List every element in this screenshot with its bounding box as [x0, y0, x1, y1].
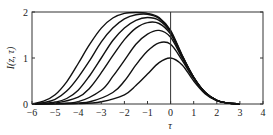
y-tick-label: 1: [23, 53, 28, 64]
x-tick-label: −4: [73, 107, 84, 118]
x-tick-label: −3: [96, 107, 107, 118]
x-tick-label: 4: [261, 107, 266, 118]
x-tick-label: −5: [50, 107, 61, 118]
series-curve-3: [32, 30, 240, 104]
x-tick-label: −1: [142, 107, 153, 118]
curves-group: [32, 13, 240, 105]
y-axis-ticks: 012: [23, 7, 263, 110]
x-axis-label: τ: [168, 120, 172, 131]
x-tick-label: 3: [237, 107, 242, 118]
y-axis-label: I(z, τ): [5, 46, 17, 70]
x-tick-label: 2: [214, 107, 219, 118]
series-curve-7: [32, 13, 240, 105]
y-tick-label: 0: [23, 99, 28, 110]
pulse-intensity-chart: −6−5−4−3−2−101234 012 τ I(z, τ): [0, 0, 273, 135]
x-tick-label: −6: [27, 107, 38, 118]
series-curve-4: [32, 22, 240, 104]
x-tick-label: 1: [191, 107, 196, 118]
x-tick-label: −2: [119, 107, 130, 118]
x-tick-label: 0: [168, 107, 173, 118]
series-curve-5: [32, 18, 240, 105]
y-tick-label: 2: [23, 7, 28, 18]
